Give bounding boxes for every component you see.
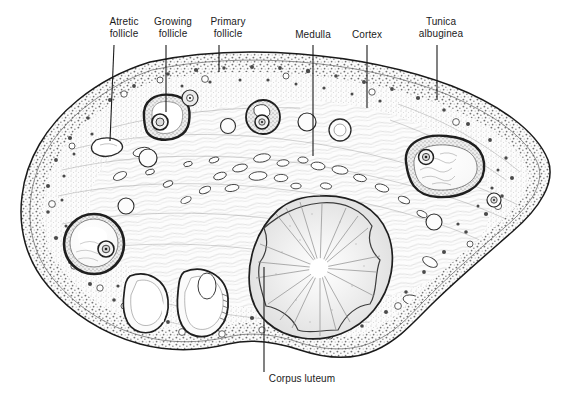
ovary-section-body xyxy=(0,0,577,403)
ovary-histology-figure: Atretic follicle Growing follicle Primar… xyxy=(0,0,577,403)
antral-follicle-left xyxy=(64,214,124,274)
label-tunica-albuginea: Tunica albuginea xyxy=(397,16,485,40)
atretic-follicle-structure xyxy=(91,138,122,157)
primary-follicle-structure xyxy=(246,100,280,134)
ovary-diagram-canvas xyxy=(0,0,577,403)
label-corpus-luteum: Corpus luteum xyxy=(232,373,372,385)
label-primary-follicle: Primary follicle xyxy=(184,16,272,40)
antral-follicle-right xyxy=(406,136,484,197)
